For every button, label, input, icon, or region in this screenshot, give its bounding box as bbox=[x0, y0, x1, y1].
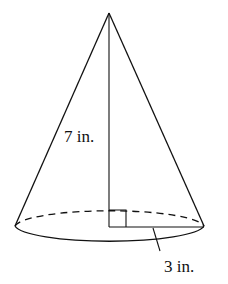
left-slant-edge bbox=[15, 13, 109, 226]
right-slant-edge bbox=[109, 13, 204, 226]
height-label: 7 in. bbox=[64, 127, 94, 146]
cone-diagram: 7 in. 3 in. bbox=[0, 0, 228, 284]
right-angle-marker bbox=[109, 210, 126, 227]
radius-label: 3 in. bbox=[164, 257, 194, 276]
base-front-solid bbox=[15, 226, 204, 241]
